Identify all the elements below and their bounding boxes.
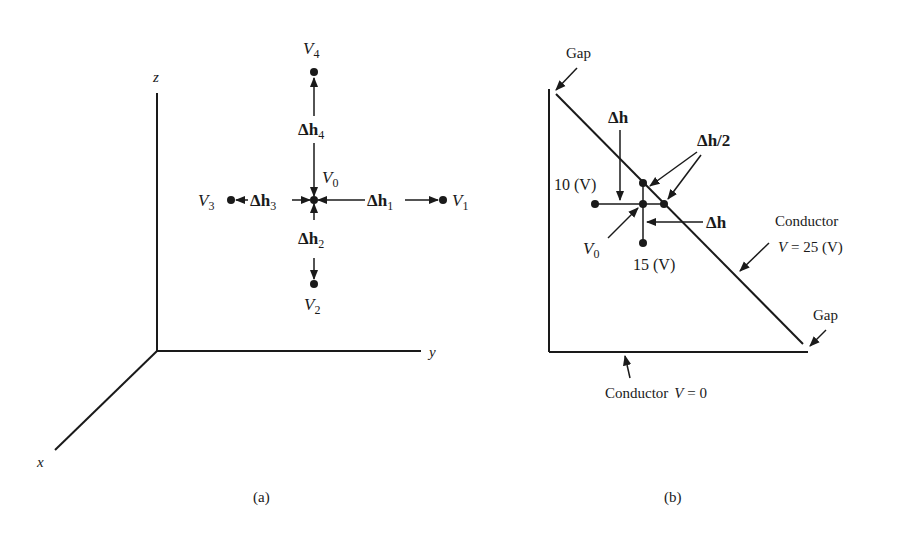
label-dh2: Δh2 <box>298 229 324 251</box>
figure-b: Gap Gap Δh Δh Δh/2 10 (V) 15 (V) V0 Cond… <box>549 45 843 506</box>
dh-top-label: Δh <box>608 108 629 127</box>
conductor-bottom-arrow <box>625 356 630 378</box>
conductor-bottom-label: ConductorV = 0 <box>605 385 707 401</box>
label-dh1: Δh1 <box>367 191 393 213</box>
label-v1: V1 <box>452 191 468 213</box>
gap-top-label: Gap <box>566 45 591 61</box>
label-dh3: Δh3 <box>250 191 276 213</box>
label-v3: V3 <box>198 191 214 213</box>
gap-bottom-arrow <box>810 330 826 346</box>
dh-half-label: Δh/2 <box>697 131 730 150</box>
node-right-boundary <box>660 200 668 208</box>
node-bottom-15v <box>639 239 647 247</box>
conductor-diag-label: Conductor <box>775 213 838 229</box>
node-v4 <box>310 68 318 76</box>
left-value-label: 10 (V) <box>554 176 596 194</box>
z-axis-label: z <box>152 69 159 85</box>
x-axis-label: x <box>36 454 44 470</box>
node-v2 <box>310 280 318 288</box>
label-v4: V4 <box>303 39 319 61</box>
figure-a: z y x V4 V0 V3 V1 V2 Δh4 Δh2 Δh3 Δh1 (a) <box>36 39 468 506</box>
node-top-boundary <box>639 179 647 187</box>
diagram-canvas: z y x V4 V0 V3 V1 V2 Δh4 Δh2 Δh3 Δh1 (a) <box>0 0 899 534</box>
node-v3 <box>227 196 235 204</box>
dh-right-label: Δh <box>706 213 727 232</box>
node-v1 <box>439 196 447 204</box>
node-v0 <box>639 200 647 208</box>
caption-b: (b) <box>664 489 682 506</box>
conductor-diag-value: V = 25 (V) <box>778 239 843 256</box>
caption-a: (a) <box>253 489 270 506</box>
label-dh4: Δh4 <box>298 120 324 142</box>
node-left-10v <box>591 200 599 208</box>
x-axis <box>55 351 157 450</box>
diagonal-conductor-line <box>556 94 803 344</box>
label-v0-b: V0 <box>583 239 599 261</box>
v0-pointer-arrow <box>608 208 638 238</box>
label-v2: V2 <box>304 295 320 317</box>
figure: z y x V4 V0 V3 V1 V2 Δh4 Δh2 Δh3 Δh1 (a) <box>0 0 899 534</box>
conductor-diag-arrow <box>740 243 769 271</box>
label-v0: V0 <box>322 168 338 190</box>
gap-top-arrow <box>556 68 577 90</box>
gap-bottom-label: Gap <box>813 307 838 323</box>
node-v0 <box>310 196 318 204</box>
y-axis-label: y <box>427 344 436 360</box>
bottom-value-label: 15 (V) <box>633 256 675 274</box>
